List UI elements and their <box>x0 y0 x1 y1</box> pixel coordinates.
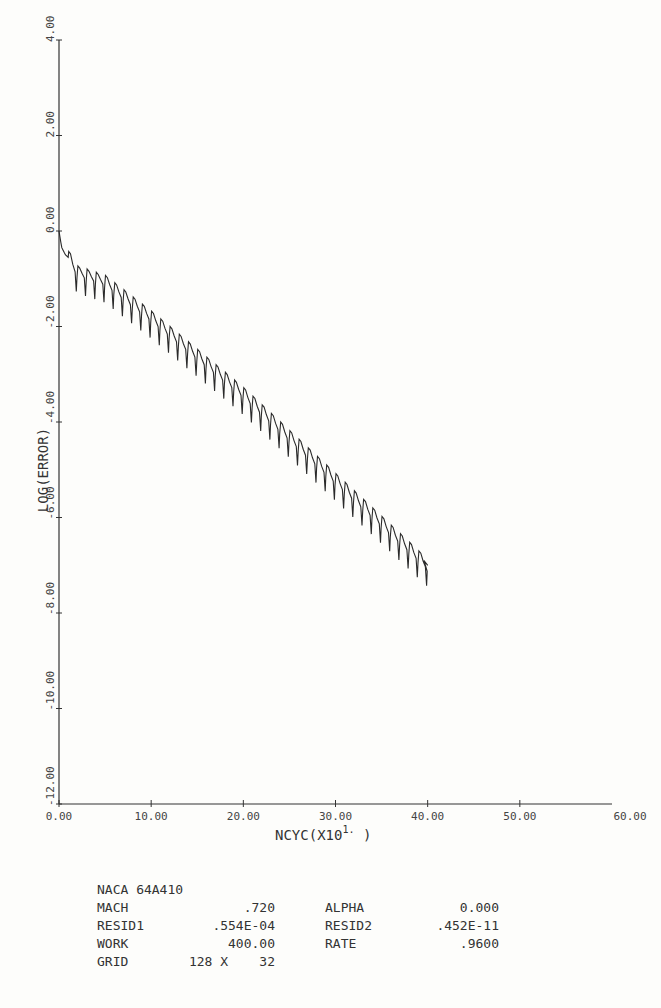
info-row-resid: RESID1 .554E-04 RESID2 .452E-11 <box>97 917 128 935</box>
info-row-mach: MACH .720 ALPHA 0.000 <box>97 899 128 917</box>
rate-value: .9600 <box>325 935 499 953</box>
run-info-block: NACA 64A410 MACH .720 ALPHA 0.000 RESID1… <box>97 881 128 971</box>
y-tick-label: 2.00 <box>44 111 57 138</box>
y-tick-label: -10.00 <box>44 671 57 711</box>
axes <box>59 40 612 804</box>
resid1-value: .554E-04 <box>97 917 275 935</box>
info-row-grid: GRID 128 X 32 <box>97 953 128 971</box>
x-tick-label: 50.00 <box>503 810 536 823</box>
alpha-value: 0.000 <box>325 899 499 917</box>
resid2-value: .452E-11 <box>325 917 499 935</box>
airfoil-name: NACA 64A410 <box>97 881 183 899</box>
convergence-plot: 4.002.000.00-2.00-4.00-6.00-8.00-10.00-1… <box>0 0 661 870</box>
x-tick-label: 10.00 <box>135 810 168 823</box>
y-tick-label: -8.00 <box>44 582 57 615</box>
x-tick-label: 40.00 <box>411 810 444 823</box>
y-axis-title: LOG(ERROR) <box>35 428 51 512</box>
airfoil-title: NACA 64A410 <box>97 881 128 899</box>
info-row-work: WORK 400.00 RATE .9600 <box>97 935 128 953</box>
y-tick-label: -4.00 <box>44 391 57 424</box>
x-axis-title: NCYC(X101. ) <box>275 824 371 843</box>
x-tick-label: 20.00 <box>227 810 260 823</box>
grid-value: 128 X 32 <box>97 953 275 971</box>
work-value: 400.00 <box>97 935 275 953</box>
mach-value: .720 <box>97 899 275 917</box>
x-tick-label: 0.00 <box>46 810 73 823</box>
error-curve <box>59 231 428 586</box>
x-tick-label: 60.00 <box>613 810 646 823</box>
y-tick-label: 0.00 <box>44 207 57 234</box>
y-tick-label: -2.00 <box>44 295 57 328</box>
y-tick-label: -12.00 <box>44 766 57 806</box>
x-tick-label: 30.00 <box>319 810 352 823</box>
y-tick-label: 4.00 <box>44 16 57 43</box>
